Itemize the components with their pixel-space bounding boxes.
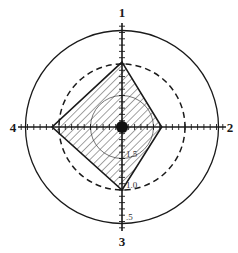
axis-label-2: 2 [227, 120, 234, 135]
center-dot [116, 121, 128, 133]
scale-label-1-0: 1.0 [126, 180, 138, 190]
scale-label-0-5: .5 [126, 212, 133, 222]
axis-label-1: 1 [119, 5, 126, 20]
axis-label-4: 4 [10, 120, 17, 135]
profile-polygon [52, 62, 162, 190]
polar-diagram: 1 2 3 4 1.5 1.0 .5 [0, 0, 238, 253]
scale-label-1-5: 1.5 [126, 149, 138, 159]
axis-label-3: 3 [119, 234, 126, 249]
